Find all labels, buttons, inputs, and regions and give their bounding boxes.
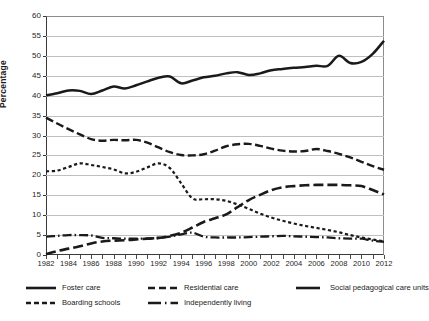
x-tick-mark: [271, 255, 272, 259]
x-tick-mark: [181, 255, 182, 259]
legend-swatch-solid-icon: [26, 283, 56, 293]
x-tick-label: 2012: [376, 260, 393, 268]
x-tick-mark: [102, 255, 103, 259]
x-tick-mark: [136, 255, 137, 259]
y-tick-label: 40: [32, 92, 41, 100]
x-tick-mark: [384, 255, 385, 259]
x-tick-mark: [159, 255, 160, 259]
x-tick-mark: [249, 255, 250, 259]
legend-item-independently-living: Independently living: [148, 298, 294, 308]
x-tick-mark: [114, 255, 115, 259]
y-axis-title: Percentage: [0, 0, 8, 108]
legend-swatch-dashdot-icon: [148, 298, 178, 308]
x-tick-mark: [192, 255, 193, 259]
x-tick-mark: [328, 255, 329, 259]
plot-area: 051015202530354045505560 198219841986198…: [46, 16, 384, 255]
x-tick-mark: [69, 255, 70, 259]
y-tick-label: 25: [32, 151, 41, 159]
x-tick-label: 1988: [105, 260, 122, 268]
series-line: [46, 233, 384, 242]
legend-label: Boarding schools: [62, 298, 120, 308]
legend-swatch-dashed-short-icon: [26, 298, 56, 308]
y-tick-label: 55: [32, 32, 41, 40]
x-tick-mark: [294, 255, 295, 259]
x-tick-mark: [316, 255, 317, 259]
x-tick-mark: [238, 255, 239, 259]
x-tick-label: 2000: [240, 260, 257, 268]
x-tick-mark: [373, 255, 374, 259]
x-tick-mark: [147, 255, 148, 259]
x-tick-mark: [361, 255, 362, 259]
x-tick-label: 2008: [330, 260, 347, 268]
x-tick-label: 2006: [308, 260, 325, 268]
x-tick-mark: [57, 255, 58, 259]
x-tick-mark: [125, 255, 126, 259]
legend-item-residential-care: Residential care: [148, 283, 294, 293]
legend-item-foster-care: Foster care: [26, 283, 148, 293]
x-tick-label: 1990: [128, 260, 145, 268]
x-tick-mark: [339, 255, 340, 259]
y-tick-label: 50: [32, 52, 41, 60]
x-tick-label: 1994: [173, 260, 190, 268]
y-tick-label: 5: [37, 231, 41, 239]
legend-label: Foster care: [62, 283, 100, 293]
x-tick-mark: [283, 255, 284, 259]
x-tick-label: 1984: [60, 260, 77, 268]
x-tick-label: 2004: [285, 260, 302, 268]
y-tick-label: 20: [32, 171, 41, 179]
x-tick-label: 1982: [38, 260, 55, 268]
x-tick-mark: [204, 255, 205, 259]
y-tick-label: 30: [32, 132, 41, 140]
legend-swatch-dashed-icon: [148, 283, 178, 293]
series-line: [46, 185, 384, 254]
y-tick-label: 15: [32, 191, 41, 199]
series-line: [46, 163, 384, 241]
legend-item-boarding-schools: Boarding schools: [26, 298, 148, 308]
y-tick-label: 10: [32, 211, 41, 219]
legend-row-2: Boarding schools Independently living: [26, 298, 398, 308]
x-tick-mark: [350, 255, 351, 259]
legend-row-1: Foster care Residential care Social peda…: [26, 283, 398, 293]
x-tick-mark: [215, 255, 216, 259]
y-tick-label: 60: [32, 12, 41, 20]
series-line: [46, 41, 384, 96]
x-tick-label: 1992: [150, 260, 167, 268]
x-tick-mark: [170, 255, 171, 259]
x-tick-mark: [226, 255, 227, 259]
x-tick-mark: [260, 255, 261, 259]
x-tick-label: 2010: [353, 260, 370, 268]
y-tick-label: 45: [32, 72, 41, 80]
y-tick-label: 0: [37, 251, 41, 259]
x-tick-mark: [46, 255, 47, 259]
x-tick-label: 2002: [263, 260, 280, 268]
x-tick-label: 1986: [83, 260, 100, 268]
x-tick-mark: [80, 255, 81, 259]
x-tick-label: 1996: [195, 260, 212, 268]
series-line: [46, 118, 384, 170]
series-lines: [46, 16, 384, 255]
x-tick-mark: [305, 255, 306, 259]
legend-label: Social pedagogical care units: [330, 283, 429, 293]
y-tick-label: 35: [32, 112, 41, 120]
legend-label: Residential care: [184, 283, 238, 293]
legend-item-social-pedagogical-care-units: Social pedagogical care units: [294, 283, 429, 293]
legend-swatch-solid-icon: [294, 283, 324, 293]
x-tick-mark: [91, 255, 92, 259]
legend-label: Independently living: [184, 298, 251, 308]
x-tick-label: 1998: [218, 260, 235, 268]
chart-legend: Foster care Residential care Social peda…: [26, 283, 398, 313]
